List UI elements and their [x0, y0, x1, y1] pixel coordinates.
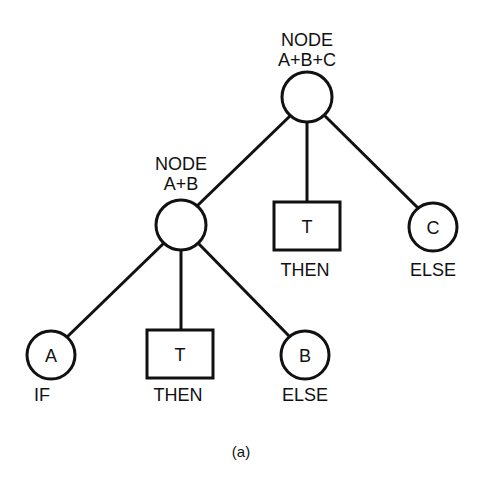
t-top-symbol: T [302, 217, 313, 237]
c-symbol: C [427, 218, 440, 238]
b-role: ELSE [282, 385, 328, 405]
root-label-line2: A+B+C [278, 50, 336, 70]
t-bottom-symbol: T [175, 345, 186, 365]
node-root-circle [282, 72, 332, 122]
decision-tree-diagram: NODE A+B+C NODE A+B T THEN C ELSE A IF T… [0, 0, 486, 484]
edge-ab-b [198, 243, 290, 337]
a-symbol: A [45, 346, 57, 366]
t-bottom-role: THEN [154, 385, 203, 405]
edge-root-ab [197, 116, 290, 206]
a-role: IF [34, 385, 50, 405]
edge-ab-a [67, 243, 164, 337]
root-label-line1: NODE [281, 30, 333, 50]
figure-caption: (a) [232, 443, 250, 460]
node-ab-circle [156, 200, 206, 250]
edge-root-c [325, 116, 418, 208]
c-role: ELSE [410, 260, 456, 280]
ab-label-line2: A+B [164, 174, 199, 194]
b-symbol: B [299, 346, 311, 366]
ab-label-line1: NODE [155, 154, 207, 174]
t-top-role: THEN [281, 260, 330, 280]
